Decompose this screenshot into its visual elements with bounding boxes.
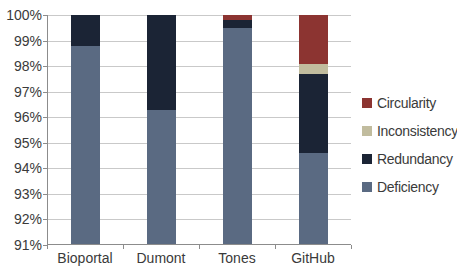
legend-item-circularity: Circularity (362, 95, 457, 110)
x-axis-tickmark (351, 245, 352, 249)
bar-segment-dumont-redundancy (147, 15, 176, 110)
y-tick-label: 97% (14, 84, 42, 100)
y-tick-label: 93% (14, 186, 42, 202)
legend-label: Inconsistency (377, 123, 457, 139)
bar-segment-dumont-deficiency (147, 110, 176, 245)
legend-swatch-icon (362, 154, 372, 164)
y-tick-label: 96% (14, 109, 42, 125)
y-tick-label: 100% (6, 7, 42, 23)
x-axis-labels: BioportalDumontTonesGitHub (47, 250, 351, 270)
bar-segment-bioportal-deficiency (71, 46, 100, 245)
category-label: Bioportal (47, 250, 123, 266)
y-tick-label: 94% (14, 160, 42, 176)
y-tick-label: 98% (14, 58, 42, 74)
bar-segment-github-redundancy (299, 74, 328, 153)
x-axis-tickmark (47, 245, 48, 249)
legend-label: Deficiency (377, 179, 439, 195)
legend-item-inconsistency: Inconsistency (362, 123, 457, 138)
bar-segment-tones-redundancy (223, 20, 252, 28)
bar-segment-github-circularity (299, 15, 328, 64)
legend-item-redundancy: Redundancy (362, 151, 457, 166)
bar-segment-github-inconsistency (299, 64, 328, 74)
category-label: Tones (199, 250, 275, 266)
legend: CircularityInconsistencyRedundancyDefici… (362, 95, 457, 194)
bar-segment-bioportal-redundancy (71, 15, 100, 46)
bar-segment-tones-circularity (223, 15, 252, 20)
y-tick-label: 95% (14, 135, 42, 151)
x-axis-tickmark (199, 245, 200, 249)
y-tick-label: 91% (14, 237, 42, 253)
legend-label: Redundancy (377, 151, 453, 167)
legend-swatch-icon (362, 98, 372, 108)
x-axis-tickmark (275, 245, 276, 249)
y-axis-line (47, 15, 48, 245)
legend-label: Circularity (377, 95, 436, 111)
legend-swatch-icon (362, 126, 372, 136)
x-axis-tickmark (123, 245, 124, 249)
legend-swatch-icon (362, 182, 372, 192)
stacked-bar-chart: 100%99%98%97%96%95%94%93%92%91% Bioporta… (0, 0, 457, 278)
category-label: Dumont (123, 250, 199, 266)
y-axis-labels: 100%99%98%97%96%95%94%93%92%91% (0, 15, 42, 245)
category-label: GitHub (275, 250, 351, 266)
bar-segment-github-deficiency (299, 153, 328, 245)
y-tick-label: 99% (14, 33, 42, 49)
legend-item-deficiency: Deficiency (362, 179, 457, 194)
y-tick-label: 92% (14, 211, 42, 227)
bar-segment-tones-deficiency (223, 28, 252, 245)
plot-area (47, 15, 351, 245)
